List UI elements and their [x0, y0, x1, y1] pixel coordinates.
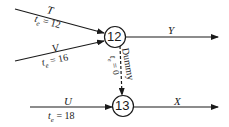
- node-12-label: 12: [107, 30, 121, 43]
- node-13-label: 13: [115, 99, 129, 112]
- network-diagram: 12 13 T te = 12 V te = 16 Y Dummy te = 0…: [0, 0, 229, 127]
- edge-X-activity: X: [174, 96, 181, 107]
- edge-U-activity: U: [64, 96, 72, 107]
- edge-U-duration: te = 18: [48, 111, 75, 124]
- edge-Y-activity: Y: [168, 25, 174, 36]
